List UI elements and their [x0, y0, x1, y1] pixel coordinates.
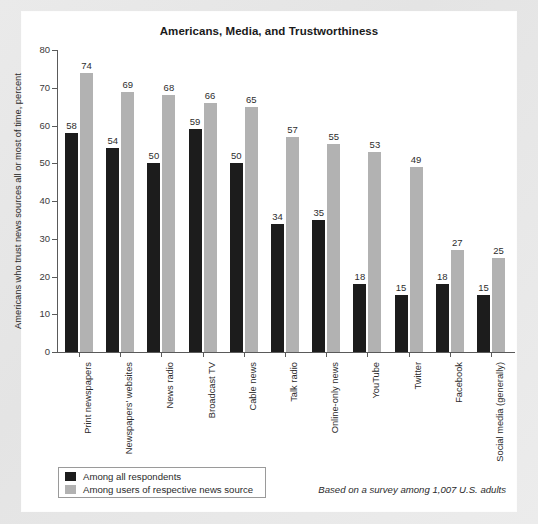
y-axis-tick-label: 80 — [28, 45, 50, 54]
y-axis-tick — [52, 239, 57, 240]
legend-swatch-all-respondents — [65, 472, 76, 481]
bar-value-label: 50 — [231, 151, 242, 161]
bar-source-users: 65 — [245, 107, 258, 352]
bar-value-label: 57 — [287, 125, 298, 135]
bar-group: 3555Online-only news — [307, 50, 348, 352]
y-axis-tick-label: 40 — [28, 196, 50, 205]
bar-value-label: 18 — [355, 272, 366, 282]
screenshot-root: Americans, Media, and Trustworthiness 01… — [0, 0, 538, 524]
bar-source-users: 68 — [162, 95, 175, 352]
legend-label-all-respondents: Among all respondents — [83, 471, 181, 482]
bar-value-label: 35 — [313, 208, 324, 218]
legend: Among all respondents Among users of res… — [58, 467, 266, 498]
y-axis-tick-label: 30 — [28, 234, 50, 243]
y-axis-tick-label: 10 — [28, 309, 50, 318]
y-axis-tick — [52, 314, 57, 315]
y-axis-tick — [52, 126, 57, 127]
y-axis-tick — [52, 352, 57, 353]
plot-area: 01020304050607080 Americans who trust ne… — [57, 50, 515, 352]
y-axis-tick — [52, 50, 57, 51]
source-annotation: Based on a survey among 1,007 U.S. adult… — [318, 484, 506, 495]
bar-source-users: 74 — [80, 73, 93, 352]
bar-group: 5065Cable news — [225, 50, 266, 352]
bar-all-respondents: 58 — [65, 133, 78, 352]
bar-value-label: 55 — [328, 132, 339, 142]
bar-source-users: 57 — [286, 137, 299, 352]
bar-value-label: 25 — [493, 246, 504, 256]
bar-value-label: 69 — [122, 80, 133, 90]
bar-all-respondents: 18 — [353, 284, 366, 352]
bar-source-users: 27 — [451, 250, 464, 352]
bar-group: 1525Social media (generally) — [472, 50, 513, 352]
bar-group: 1853YouTube — [348, 50, 389, 352]
bar-value-label: 15 — [396, 283, 407, 293]
bar-value-label: 66 — [205, 91, 216, 101]
bar-source-users: 25 — [492, 258, 505, 352]
bar-all-respondents: 18 — [436, 284, 449, 352]
bar-all-respondents: 50 — [230, 163, 243, 352]
bar-value-label: 65 — [246, 95, 257, 105]
bar-all-respondents: 54 — [106, 148, 119, 352]
bar-group: 5068News radio — [142, 50, 183, 352]
bar-group: 5874Print newspapers — [60, 50, 101, 352]
bar-source-users: 49 — [410, 167, 423, 352]
x-axis-tick — [79, 352, 80, 357]
y-axis-tick-label: 70 — [28, 83, 50, 92]
bar-group: 1827Facebook — [431, 50, 472, 352]
bar-value-label: 58 — [66, 121, 77, 131]
x-axis-tick — [203, 352, 204, 357]
bar-group: 5469Newspapers' websites — [101, 50, 142, 352]
bar-source-users: 55 — [327, 144, 340, 352]
bar-all-respondents: 50 — [147, 163, 160, 352]
bar-value-label: 74 — [81, 61, 92, 71]
x-axis-tick — [450, 352, 451, 357]
y-axis-tick-label: 20 — [28, 272, 50, 281]
bar-value-label: 49 — [411, 155, 422, 165]
x-axis-tick — [285, 352, 286, 357]
y-axis-tick-label: 0 — [28, 347, 50, 356]
bar-value-label: 15 — [478, 283, 489, 293]
bar-source-users: 69 — [121, 92, 134, 352]
x-axis-tick — [367, 352, 368, 357]
chart-title: Americans, Media, and Trustworthiness — [22, 25, 516, 37]
y-axis-tick — [52, 88, 57, 89]
y-axis-tick — [52, 163, 57, 164]
bar-value-label: 54 — [107, 136, 118, 146]
bar-group: 1549Twitter — [390, 50, 431, 352]
y-axis-tick-labels: 01020304050607080 — [24, 50, 50, 352]
x-axis-tick — [161, 352, 162, 357]
bar-value-label: 18 — [437, 272, 448, 282]
x-axis-tick — [326, 352, 327, 357]
y-axis-tick-label: 50 — [28, 158, 50, 167]
x-axis-tick — [409, 352, 410, 357]
y-axis-tick — [52, 277, 57, 278]
bar-source-users: 66 — [204, 103, 217, 352]
bar-group: 3457Talk radio — [266, 50, 307, 352]
bar-all-respondents: 15 — [395, 295, 408, 352]
bar-all-respondents: 35 — [312, 220, 325, 352]
y-axis-tick — [52, 201, 57, 202]
bar-all-respondents: 59 — [189, 129, 202, 352]
bar-all-respondents: 34 — [271, 224, 284, 352]
bar-value-label: 50 — [149, 151, 160, 161]
bar-value-label: 68 — [164, 83, 175, 93]
x-axis-tick — [244, 352, 245, 357]
bar-source-users: 53 — [368, 152, 381, 352]
bar-all-respondents: 15 — [477, 295, 490, 352]
legend-label-source-users: Among users of respective news source — [83, 484, 253, 495]
x-axis-line — [57, 352, 515, 353]
bar-value-label: 59 — [190, 117, 201, 127]
bar-group: 5966Broadcast TV — [184, 50, 225, 352]
legend-swatch-source-users — [65, 485, 76, 494]
bar-value-label: 34 — [272, 212, 283, 222]
y-axis-title: Americans who trust news sources all or … — [11, 50, 25, 352]
bar-value-label: 27 — [452, 238, 463, 248]
y-axis-tick-label: 60 — [28, 121, 50, 130]
x-axis-tick — [120, 352, 121, 357]
bar-value-label: 53 — [370, 140, 381, 150]
y-axis-line — [57, 50, 58, 353]
x-axis-tick — [491, 352, 492, 357]
legend-item-source-users: Among users of respective news source — [65, 483, 253, 496]
legend-item-all-respondents: Among all respondents — [65, 470, 181, 483]
chart-card: Americans, Media, and Trustworthiness 01… — [22, 12, 516, 511]
